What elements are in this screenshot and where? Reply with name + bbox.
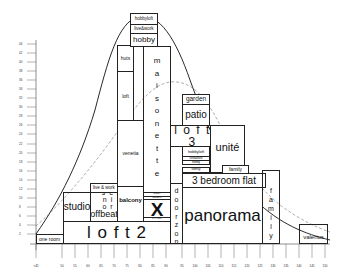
y-tick: 40 (19, 60, 22, 64)
x-tick: 75 (125, 264, 128, 268)
block-loft-3: l o f t 3 (170, 125, 215, 147)
x-tick: <45 (33, 264, 38, 268)
y-tick: 30 (19, 105, 22, 109)
x-tick: 120 (244, 264, 249, 268)
block-hobby-small: hobby (182, 160, 210, 165)
x-tick: 95 (180, 264, 183, 268)
x-tick: 150 (322, 264, 327, 268)
y-tick: 38 (19, 69, 22, 73)
block-live-work-top: live&work (130, 24, 158, 34)
letter: s (155, 95, 159, 103)
y-tick: 32 (19, 96, 22, 100)
block-loft-2: l o f t 2 (63, 221, 171, 244)
x-tick: 65 (99, 264, 102, 268)
letter: r (175, 213, 177, 220)
y-tick: 4 (19, 223, 21, 227)
letter: t (156, 145, 158, 153)
letter: m (268, 205, 274, 212)
y-tick: 18 (19, 160, 22, 164)
letter: f (270, 187, 272, 194)
letter: o (175, 204, 179, 211)
block-x-bottom-small: 0,4 / 8m² (143, 217, 171, 222)
x-tick: 145 (309, 264, 314, 268)
letter: t (156, 157, 158, 165)
block-panorama: panorama (182, 187, 263, 244)
letter: d (175, 187, 179, 194)
block-maisonette: m a i s o n e t t e (143, 46, 171, 197)
y-tick: 36 (19, 78, 22, 82)
housing-typology-chart: 44 42 40 38 36 34 32 30 28 26 24 22 20 1… (0, 0, 351, 272)
block-venetia: venetia (117, 120, 144, 187)
y-tick: 42 (19, 51, 22, 55)
x-tick: 115 (232, 264, 237, 268)
y-tick: 12 (19, 187, 22, 191)
y-tick: 20 (19, 151, 22, 155)
letter: m (154, 57, 161, 65)
block-3-bedroom-flat: 3 bedroom flat (182, 173, 266, 188)
x-tick: 125 (257, 264, 262, 268)
x-tick: 130 (270, 264, 275, 268)
block-family-vertical: f a m i l y (262, 170, 280, 244)
letter: o (175, 230, 179, 237)
letter: e (155, 132, 159, 140)
x-tick: 85 (151, 264, 154, 268)
x-tick: 60 (86, 264, 89, 268)
y-tick: 24 (19, 132, 22, 136)
y-tick: 22 (19, 142, 22, 146)
letter: i (156, 82, 158, 90)
letter: e (155, 170, 159, 178)
letter: o (175, 196, 179, 203)
x-tick: 140 (296, 264, 301, 268)
letter: y (269, 232, 273, 239)
letter: n (155, 120, 159, 128)
y-tick: 26 (19, 123, 22, 127)
y-tick: 8 (19, 205, 21, 209)
y-tick: 28 (19, 114, 22, 118)
x-tick: 50 (60, 264, 63, 268)
y-tick: 14 (19, 178, 22, 182)
block-studio: studio (63, 192, 91, 222)
block-valerius: valerius (299, 224, 328, 244)
block-one-room: one room (36, 234, 64, 244)
y-tick: 44 (19, 42, 22, 46)
y-tick: 34 (19, 87, 22, 91)
letter: a (269, 196, 273, 203)
block-loft: loft (117, 71, 134, 121)
x-tick: 55 (73, 264, 76, 268)
block-huts: huts (117, 45, 134, 72)
y-tick: 16 (19, 169, 22, 173)
block-hobby: hobby (130, 33, 158, 47)
x-tick: 135 (283, 264, 288, 268)
block-live-work: live & work (90, 183, 118, 193)
x-tick: 105 (205, 264, 210, 268)
y-tick: 2 (19, 232, 21, 236)
x-tick: 110 (219, 264, 224, 268)
letter: a (155, 70, 159, 78)
x-tick: 80 (138, 264, 141, 268)
y-tick: 6 (19, 214, 21, 218)
letter: l (270, 223, 272, 230)
letter: o (155, 107, 159, 115)
block-x-top-small-2: dakdeel (143, 196, 171, 200)
y-tick: 10 (19, 196, 22, 200)
block-hobbyloft-top: hobbyloft (130, 13, 158, 25)
x-tick: 70 (112, 264, 115, 268)
letter: i (270, 214, 272, 221)
block-patio: patio (182, 104, 210, 126)
x-tick: 90 (164, 264, 167, 268)
block-senior: s e n i o r (90, 192, 118, 206)
letter: n (175, 238, 179, 244)
block-balcony: balcony (117, 186, 144, 222)
letter: z (175, 221, 179, 228)
x-tick: 100 (192, 264, 197, 268)
